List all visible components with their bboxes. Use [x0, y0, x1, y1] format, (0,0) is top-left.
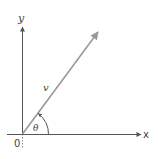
y-axis-label: y: [17, 12, 25, 25]
x-axis-label: x: [143, 129, 149, 140]
vector-v: [23, 32, 99, 134]
angle-arc: [38, 114, 48, 135]
angle-label: θ: [33, 123, 39, 133]
vector-diagram: y x 0 v θ: [0, 0, 158, 159]
origin-label: 0: [14, 138, 20, 149]
vector-label: v: [43, 82, 49, 93]
